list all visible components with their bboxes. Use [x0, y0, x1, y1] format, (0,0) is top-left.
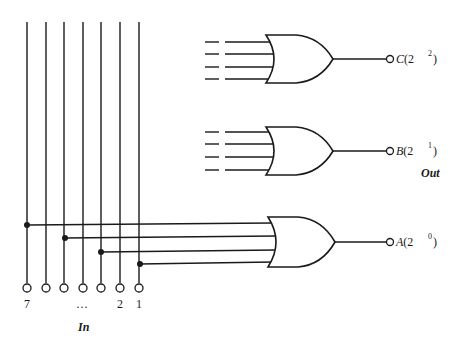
or-gate-a — [268, 217, 394, 267]
exponent-b: 1 — [428, 141, 432, 150]
wire-1-to-a — [139, 262, 273, 264]
output-label-c: C(2 — [396, 52, 414, 66]
output-terminal-b — [387, 148, 394, 155]
input-label-ellipsis: … — [76, 297, 88, 311]
close-paren-c: ) — [433, 52, 437, 66]
junction-3 — [98, 249, 104, 255]
terminal-5 — [60, 284, 68, 292]
terminal-2 — [116, 284, 124, 292]
input-label-7: 7 — [24, 297, 30, 311]
terminal-7 — [23, 284, 31, 292]
close-paren-b: ) — [433, 144, 437, 158]
encoder-diagram: C(2 2 ) B(2 1 ) A(2 0 ) Out In 7 … 2 1 — [0, 0, 462, 342]
output-label-a: A(2 — [395, 235, 413, 249]
close-paren-a: ) — [433, 235, 437, 249]
input-label-1: 1 — [136, 297, 142, 311]
output-terminal-a — [387, 239, 394, 246]
input-lines — [27, 22, 139, 283]
label-b-text: (2 — [403, 144, 413, 158]
exponent-c: 2 — [428, 49, 432, 58]
wire-3-to-a — [101, 250, 276, 252]
terminal-4 — [79, 284, 87, 292]
input-label-2: 2 — [117, 297, 123, 311]
label-c-text: (2 — [404, 52, 414, 66]
junction-7 — [24, 222, 30, 228]
or-gate-b — [205, 127, 394, 175]
in-group-label: In — [77, 320, 90, 334]
junction-5 — [62, 235, 68, 241]
output-terminal-c — [387, 56, 394, 63]
terminal-3 — [97, 284, 105, 292]
wire-5-to-a — [64, 236, 276, 238]
or-gate-c — [205, 35, 394, 83]
terminal-1 — [135, 284, 143, 292]
input-terminals — [23, 284, 143, 292]
terminal-6 — [42, 284, 50, 292]
out-group-label: Out — [421, 166, 440, 180]
output-label-b: B(2 — [396, 144, 413, 158]
label-a-text: (2 — [403, 235, 413, 249]
exponent-a: 0 — [428, 232, 432, 241]
junction-1 — [137, 261, 143, 267]
